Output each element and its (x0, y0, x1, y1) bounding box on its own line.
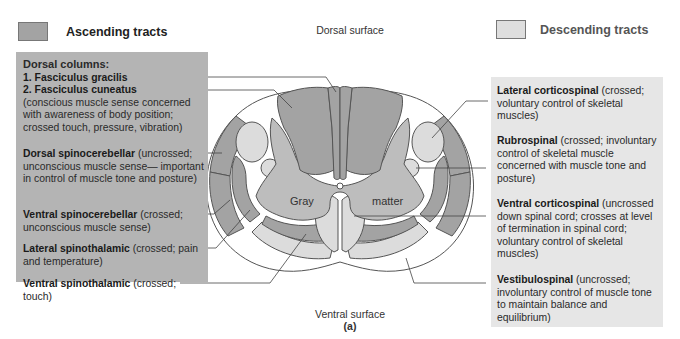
lateral-corticospinal-left (236, 122, 268, 162)
matter-label: matter (372, 195, 404, 207)
tract-lateral-spinothalamic: Lateral spinothalamic (crossed; pain and… (23, 243, 204, 268)
dorsal-columns-heading: Dorsal columns: (23, 58, 204, 71)
tract-fasciculus-cuneatus: 2. Fasciculus cuneatus (conscious muscle… (23, 84, 204, 134)
central-canal (337, 183, 343, 189)
figure-panel-label: (a) (290, 320, 410, 332)
tract-rubrospinal: Rubrospinal (crossed; involuntary contro… (497, 135, 659, 185)
gray-label: Gray (290, 195, 314, 207)
tract-dorsal-spinocerebellar: Dorsal spinocerebellar (uncrossed; uncon… (23, 148, 204, 186)
tract-vestibulospinal: Vestibulospinal (uncrossed; involuntary … (497, 274, 659, 324)
lateral-corticospinal-right (412, 122, 444, 162)
ventral-surface-label: Ventral surface (a) (290, 308, 410, 332)
tract-ventral-spinocerebellar: Ventral spinocerebellar (crossed; uncons… (23, 209, 204, 234)
descending-tracts-panel: Lateral corticospinal (crossed; voluntar… (491, 77, 663, 327)
tract-lateral-corticospinal: Lateral corticospinal (crossed; voluntar… (497, 85, 659, 123)
tract-ventral-spinothalamic: Ventral spinothalamic (crossed; touch) (23, 278, 204, 303)
tract-fasciculus-gracilis: 1. Fasciculus gracilis (23, 72, 204, 85)
ventral-surface-text: Ventral surface (315, 308, 385, 320)
tract-ventral-corticospinal: Ventral corticospinal (uncrossed down sp… (497, 198, 659, 261)
ascending-tracts-panel: Dorsal columns: 1. Fasciculus gracilis 2… (16, 52, 208, 282)
